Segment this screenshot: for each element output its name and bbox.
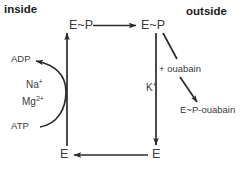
node-e-inside: E (60, 148, 68, 161)
inside-label: inside (4, 4, 37, 16)
magnesium-label: Mg2+ (22, 97, 44, 107)
arrow-ep-outside-to-ouabain-lower (180, 77, 197, 102)
sodium-charge: + (39, 78, 43, 85)
magnesium-charge: 2+ (36, 95, 44, 102)
ouabain-label: + ouabain (159, 64, 201, 74)
arrow-ep-outside-to-ouabain-upper (163, 33, 177, 59)
potassium-symbol: K (146, 82, 153, 93)
node-ep-inside: E~P (69, 19, 93, 32)
sodium-symbol: Na (26, 79, 39, 90)
atp-label: ATP (11, 121, 29, 131)
node-e-outside: E (152, 148, 160, 161)
magnesium-symbol: Mg (22, 96, 36, 107)
pathway-diagram: inside outside E~P E~P E E E~P-ouabain A… (0, 0, 251, 171)
sodium-label: Na+ (26, 80, 43, 90)
node-ep-outside: E~P (141, 19, 165, 32)
potassium-charge: + (153, 81, 157, 88)
node-ep-ouabain: E~P-ouabain (180, 105, 235, 115)
adp-label: ADP (11, 54, 31, 64)
outside-label: outside (186, 6, 227, 18)
potassium-label: K+ (146, 83, 157, 93)
